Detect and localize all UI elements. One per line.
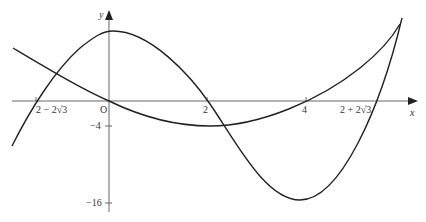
x-axis-label: x — [410, 108, 414, 118]
y-tick-label-minus-16: −16 — [86, 198, 102, 208]
x-tick-label-2-plus-2root3: 2 + 2√3 — [340, 105, 371, 115]
y-tick-label-minus-4: −4 — [90, 121, 101, 131]
x-tick-label-2-minus-2root3: 2 − 2√3 — [36, 105, 67, 115]
origin-label: O — [100, 105, 107, 115]
x-axis-arrow-icon — [408, 97, 418, 105]
y-axis-label: y — [99, 10, 103, 20]
y-axis-arrow-icon — [105, 10, 113, 20]
x-tick-label-4: 4 — [302, 105, 307, 115]
x-tick-label-2: 2 — [203, 105, 208, 115]
